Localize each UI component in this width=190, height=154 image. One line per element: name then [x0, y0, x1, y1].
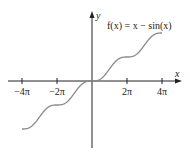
tick-label-2pi: 2π — [122, 86, 132, 97]
tick-label-4pi: 4π — [157, 86, 167, 97]
x-axis-label: x — [174, 68, 180, 79]
tick-label-neg-4pi: −4π — [14, 86, 30, 97]
y-axis-label: y — [95, 10, 101, 21]
x-axis-arrow-icon — [175, 79, 182, 84]
function-label: f(x) = x − sin(x) — [107, 20, 172, 32]
y-axis-arrow-icon — [90, 11, 95, 18]
chart-plot: −4π −2π 2π 4π x y f(x) = x − sin(x) — [0, 0, 190, 154]
tick-label-neg-2pi: −2π — [49, 86, 65, 97]
